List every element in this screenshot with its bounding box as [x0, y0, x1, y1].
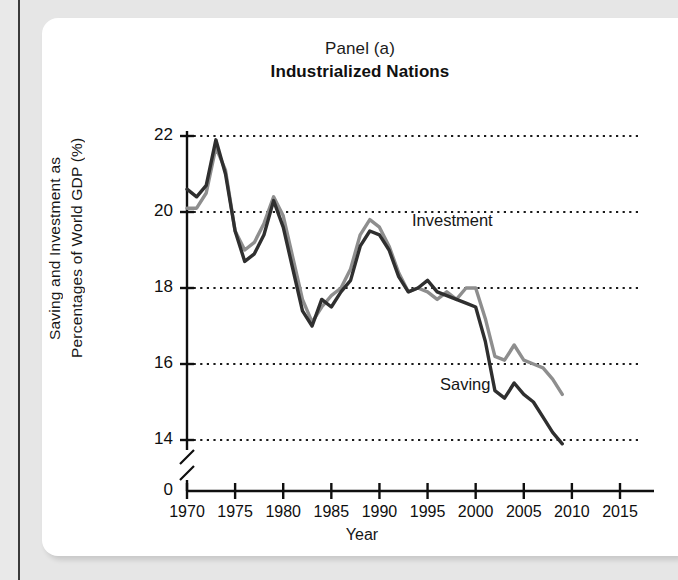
axes [180, 131, 654, 491]
figure-card: Panel (a) Industrialized Nations Saving … [42, 18, 678, 556]
tick-marks [180, 136, 620, 499]
y-tick-label: 16 [125, 353, 173, 373]
series-label-investment: Investment [412, 211, 493, 230]
data-series [187, 140, 562, 444]
x-tick-label: 2015 [592, 503, 648, 521]
series-label-saving: Saving [440, 375, 490, 394]
y-tick-label: 22 [125, 125, 173, 145]
y-tick-label: 18 [125, 277, 173, 297]
y-tick-label: 20 [125, 201, 173, 221]
x-axis-label: Year [142, 526, 582, 544]
plot-area: Saving and Investment as Percentages of … [42, 18, 678, 556]
y-tick-label: 14 [125, 429, 173, 449]
figure-page: Panel (a) Industrialized Nations Saving … [0, 0, 678, 580]
y-tick-label: 0 [125, 480, 173, 500]
